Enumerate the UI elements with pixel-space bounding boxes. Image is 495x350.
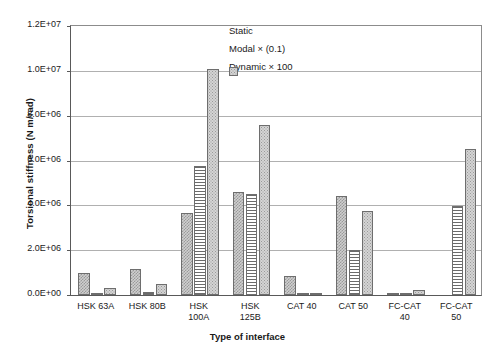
bar-modal-1 [143, 292, 155, 295]
y-axis-tick-label: 6.0E+06 [0, 155, 61, 164]
bar-static-4 [284, 276, 296, 295]
bar-dynamic-2 [207, 69, 219, 295]
x-axis-category-line: FC-CAT [425, 301, 489, 312]
legend-label: Static [229, 22, 253, 40]
y-axis-tick-label: 0.0E+00 [0, 289, 61, 298]
gridline [71, 205, 481, 206]
legend-label: Dynamic × 100 [229, 58, 293, 76]
x-axis-title: Type of interface [0, 331, 495, 342]
gridline [71, 161, 481, 162]
bar-static-1 [130, 269, 142, 295]
bar-dynamic-0 [104, 288, 116, 295]
y-axis-tick-label: 1.0E+07 [0, 65, 61, 74]
y-axis-tick-label: 1.2E+07 [0, 20, 61, 29]
y-axis-tick [67, 161, 71, 162]
bar-static-3 [233, 192, 245, 295]
y-axis-tick-label: 8.0E+06 [0, 110, 61, 119]
legend-item-static: Static [229, 22, 293, 40]
bar-static-2 [181, 213, 193, 295]
legend-item-dynamic: Dynamic × 100 [229, 58, 293, 76]
bar-modal-5 [349, 250, 361, 295]
bar-modal-6 [400, 293, 412, 295]
gridline [71, 116, 481, 117]
x-axis-category-7: FC-CAT50 [425, 301, 489, 323]
bar-modal-3 [246, 194, 258, 295]
x-axis-category-line: 125B [219, 312, 283, 323]
torsional-stiffness-bar-chart: Torsional stiffness (N m/rad) 1.2E+071.0… [0, 0, 495, 350]
y-axis-tick-label: 4.0E+06 [0, 199, 61, 208]
x-axis-category-line: 50 [425, 312, 489, 323]
bar-dynamic-5 [362, 211, 374, 295]
chart-legend: StaticModal × (0.1)Dynamic × 100 [229, 22, 293, 76]
y-axis-tick [67, 295, 71, 296]
bar-static-5 [336, 196, 348, 295]
bar-static-0 [78, 273, 90, 295]
bar-dynamic-6 [413, 290, 425, 295]
y-axis-tick [67, 116, 71, 117]
bar-static-6 [387, 293, 399, 295]
bar-modal-4 [297, 293, 309, 295]
y-axis-tick [67, 250, 71, 251]
bar-modal-2 [194, 166, 206, 295]
bar-dynamic-3 [259, 125, 271, 295]
bar-modal-7 [452, 206, 464, 295]
legend-item-modal: Modal × (0.1) [229, 40, 293, 58]
bar-dynamic-7 [465, 149, 477, 295]
y-axis-tick [67, 205, 71, 206]
bar-modal-0 [91, 293, 103, 295]
bar-dynamic-1 [156, 284, 168, 295]
y-axis-tick-label: 2.0E+06 [0, 244, 61, 253]
gridline [71, 250, 481, 251]
y-axis-tick [67, 71, 71, 72]
y-axis-tick [67, 26, 71, 27]
bar-dynamic-4 [310, 293, 322, 295]
legend-label: Modal × (0.1) [229, 40, 285, 58]
legend-swatch-dynamic-icon [229, 67, 238, 76]
